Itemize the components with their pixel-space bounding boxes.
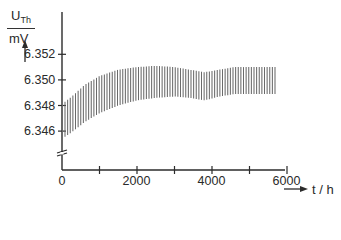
data-series [62,66,275,139]
x-axis-label: t / h [312,183,334,196]
y-tick-label: 6.352 [24,48,55,61]
x-tick-label: 2000 [123,175,151,188]
x-tick-label: 0 [58,175,65,188]
x-tick-label: 4000 [198,175,226,188]
y-tick-label: 6.348 [24,100,55,113]
y-tick-label: 6.346 [24,125,55,138]
x-tick-label: 6000 [273,175,301,188]
y-tick-label: 6.350 [24,74,55,87]
